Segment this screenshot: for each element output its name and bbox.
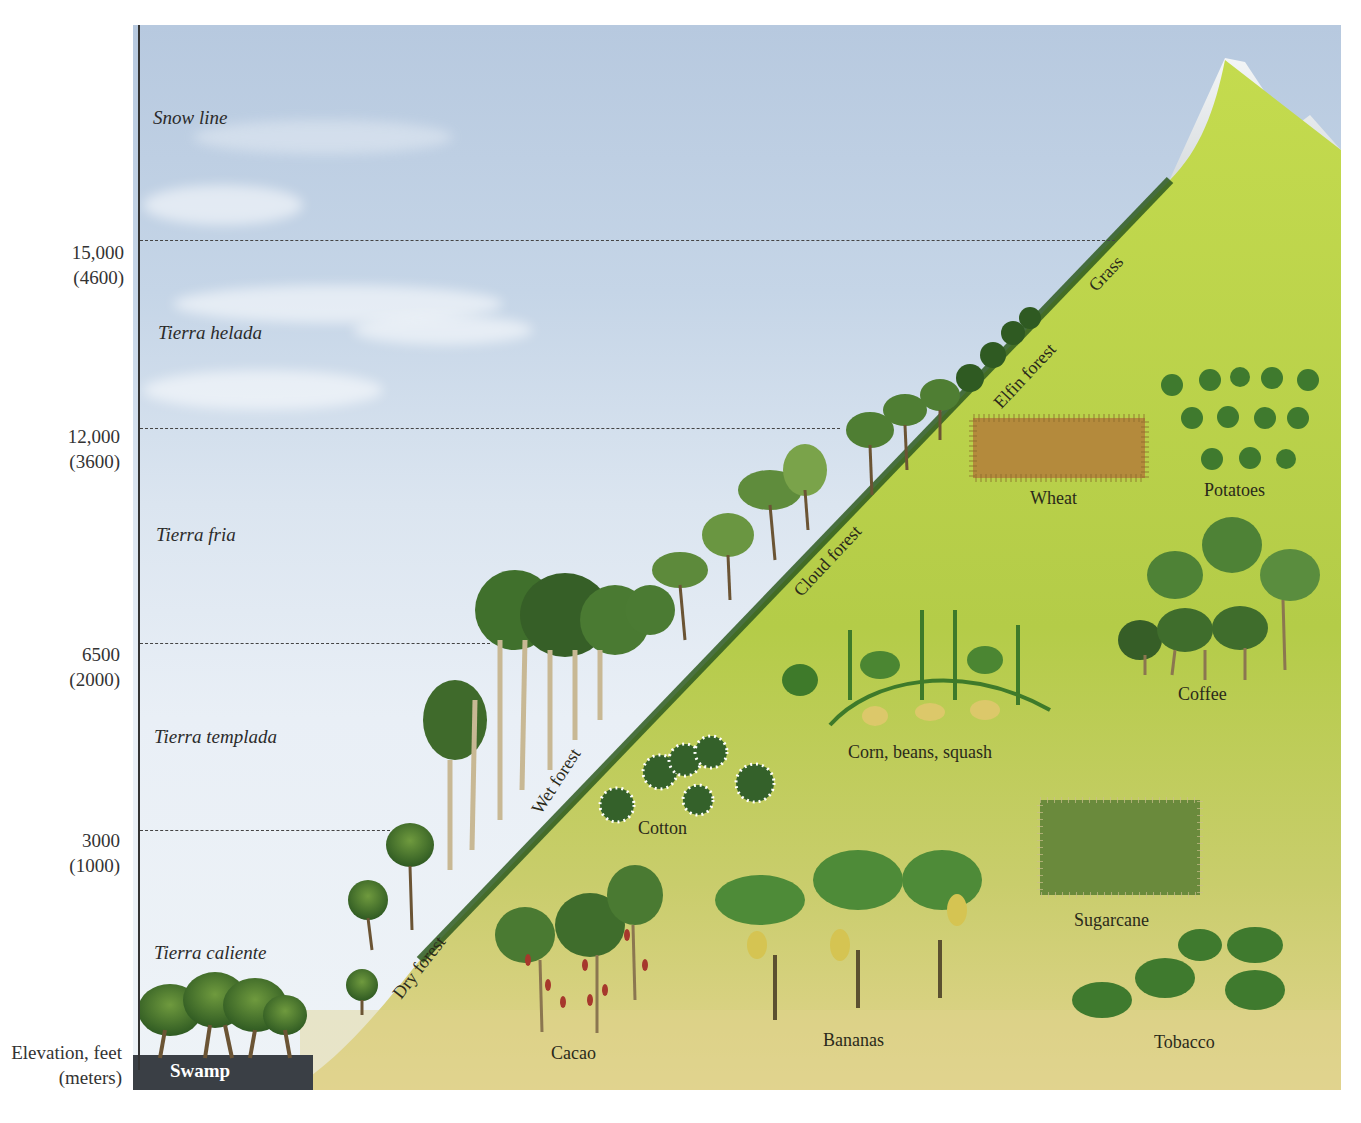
elevation-line-3000 <box>140 830 390 831</box>
zone-label-snow-line: Snow line <box>153 107 227 129</box>
crop-label-cotton: Cotton <box>638 818 687 839</box>
elevation-meters: (2000) <box>20 667 120 692</box>
mangrove-trees-icon <box>138 972 307 1058</box>
axis-title: Elevation, feet (meters) <box>0 1040 122 1090</box>
elevation-line-6500 <box>140 643 490 644</box>
crop-label-wheat: Wheat <box>1030 488 1077 509</box>
elevation-label-15000: 15,000 (4600) <box>20 240 124 290</box>
elevation-meters: (4600) <box>20 265 124 290</box>
elevation-line-15000 <box>140 240 1115 241</box>
elevation-label-6500: 6500 (2000) <box>20 642 120 692</box>
elevation-feet: 3000 <box>20 828 120 853</box>
zone-label-tierra-templada: Tierra templada <box>154 726 277 748</box>
elevation-feet: 12,000 <box>20 424 120 449</box>
crop-label-potatoes: Potatoes <box>1204 480 1265 501</box>
crop-label-coffee: Coffee <box>1178 684 1227 705</box>
elevation-feet: 6500 <box>20 642 120 667</box>
crop-label-sugarcane: Sugarcane <box>1074 910 1149 931</box>
vertical-zonation-diagram: 15,000 (4600) 12,000 (3600) 6500 (2000) … <box>0 0 1361 1123</box>
elevation-line-12000 <box>140 428 840 429</box>
elevation-label-12000: 12,000 (3600) <box>20 424 120 474</box>
zone-label-tierra-helada: Tierra helada <box>158 322 262 344</box>
wheat-field-icon <box>973 418 1145 478</box>
crop-label-cacao: Cacao <box>551 1043 596 1064</box>
elevation-label-3000: 3000 (1000) <box>20 828 120 878</box>
crop-label-bananas: Bananas <box>823 1030 884 1051</box>
zone-label-tierra-fria: Tierra fria <box>156 524 236 546</box>
axis-title-line1: Elevation, feet <box>0 1040 122 1065</box>
crop-label-tobacco: Tobacco <box>1154 1032 1215 1053</box>
elevation-feet: 15,000 <box>20 240 124 265</box>
crop-label-corn-beans-squash: Corn, beans, squash <box>848 742 992 763</box>
axis-title-line2: (meters) <box>0 1065 122 1090</box>
axis-brace <box>138 25 140 1070</box>
sugarcane-field-icon <box>1040 800 1200 895</box>
elevation-meters: (3600) <box>20 449 120 474</box>
elevation-meters: (1000) <box>20 853 120 878</box>
vegetation-label-swamp: Swamp <box>170 1060 230 1082</box>
zone-label-tierra-caliente: Tierra caliente <box>154 942 266 964</box>
